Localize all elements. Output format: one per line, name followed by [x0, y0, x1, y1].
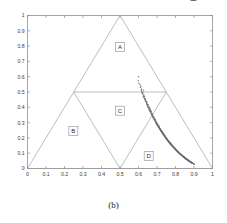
- x-tick-label: 0.7: [153, 171, 160, 177]
- y-tick-label: 0.5: [17, 89, 24, 95]
- data-point: [150, 111, 151, 112]
- data-point: [143, 90, 144, 91]
- x-tick-label: 0.9: [190, 171, 197, 177]
- data-point: [143, 96, 144, 97]
- x-tick-label: 0.5: [116, 171, 123, 177]
- data-point: [138, 82, 139, 83]
- data-point: [167, 139, 168, 140]
- data-point: [148, 105, 149, 106]
- y-tick-label: 0.3: [17, 120, 24, 126]
- data-point: [145, 99, 146, 100]
- figure-caption: (b): [0, 200, 227, 210]
- y-tick-label: 0.7: [17, 58, 24, 64]
- x-tick-label: 0.8: [172, 171, 179, 177]
- y-tick-label: 0.4: [17, 104, 24, 110]
- data-point: [138, 76, 139, 77]
- region-label-a: A: [118, 44, 122, 50]
- x-tick-label: 0.2: [61, 171, 68, 177]
- data-point: [157, 124, 158, 125]
- data-point: [161, 130, 162, 131]
- data-point: [147, 104, 148, 105]
- data-point: [145, 101, 146, 102]
- data-point: [141, 92, 142, 93]
- data-point: [166, 137, 167, 138]
- data-point: [141, 90, 142, 91]
- region-label-d: D: [147, 153, 152, 159]
- data-point: [142, 93, 143, 94]
- data-point: [139, 83, 140, 84]
- y-tick-label: 0.9: [17, 28, 24, 34]
- data-point: [152, 114, 153, 115]
- data-point: [140, 87, 141, 88]
- region-label-c: C: [118, 108, 123, 114]
- region-label-b: B: [71, 128, 75, 134]
- y-tick-label: 0.1: [17, 150, 24, 156]
- x-tick-label: 1: [211, 171, 214, 177]
- data-point: [156, 121, 157, 122]
- y-tick-label: 0.8: [17, 43, 24, 49]
- y-tick-label: 0: [22, 165, 25, 171]
- y-tick-label: 1: [22, 12, 25, 18]
- data-point: [162, 132, 163, 133]
- data-point: [140, 84, 141, 85]
- data-point: [160, 128, 161, 129]
- data-point: [149, 106, 150, 107]
- x-tick-label: 0.1: [42, 171, 49, 177]
- figure-panel: 00.10.20.30.40.50.60.70.80.9100.10.20.30…: [0, 0, 227, 223]
- data-point: [146, 103, 147, 104]
- data-point: [153, 116, 154, 117]
- data-point: [144, 97, 145, 98]
- x-tick-label: 0.6: [135, 171, 142, 177]
- data-point: [169, 142, 170, 143]
- data-point: [141, 89, 142, 90]
- x-tick-label: 0.4: [98, 171, 105, 177]
- data-point: [149, 108, 150, 109]
- data-point: [155, 119, 156, 120]
- scatter-plot: 00.10.20.30.40.50.60.70.80.9100.10.20.30…: [0, 0, 227, 223]
- data-point: [163, 134, 164, 135]
- data-point: [194, 164, 195, 165]
- data-point: [159, 126, 160, 127]
- data-point: [143, 94, 144, 95]
- data-point: [138, 80, 139, 81]
- y-tick-label: 0.2: [17, 135, 24, 141]
- data-point: [170, 143, 171, 144]
- y-tick-label: 0.6: [17, 74, 24, 80]
- x-tick-label: 0: [26, 171, 29, 177]
- data-point: [165, 135, 166, 136]
- x-tick-label: 0.3: [79, 171, 86, 177]
- data-point: [168, 140, 169, 141]
- data-point: [150, 112, 151, 113]
